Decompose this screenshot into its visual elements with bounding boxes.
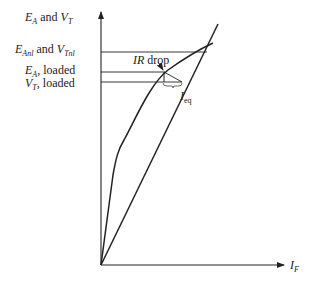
ir-drop-hypotenuse	[164, 72, 182, 82]
y-axis-label: EA and VT	[24, 10, 73, 26]
ir-drop-label: IR drop	[132, 53, 169, 67]
x-axis-label: IF	[289, 258, 299, 274]
no-load-label: EAnl and VTnl	[14, 42, 76, 58]
generator-characteristic-diagram: EA and VT EAnl and VTnl EA, loaded VT, l…	[0, 0, 310, 284]
i-eq-brace	[163, 83, 182, 88]
